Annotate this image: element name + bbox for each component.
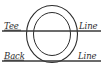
outer-circle-ring [27, 6, 78, 63]
tee-line-label: Line [78, 21, 98, 31]
back-line-label: Line [77, 51, 97, 61]
inner-circle-ring [34, 13, 71, 56]
diagram-canvas: Tee Line Back Line [0, 0, 103, 78]
back-label: Back [3, 51, 25, 61]
tee-label: Tee [4, 21, 19, 31]
curling-house-diagram: Tee Line Back Line [0, 0, 103, 78]
